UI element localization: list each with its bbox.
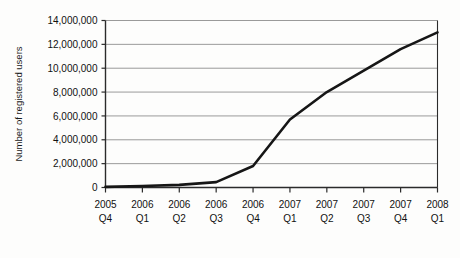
- x-tick-label-year: 2006: [242, 199, 265, 210]
- x-tick-label-year: 2007: [353, 199, 376, 210]
- y-tick-label: 12,000,000: [47, 39, 97, 50]
- y-tick-label: 8,000,000: [53, 87, 98, 98]
- x-tick-label-quarter: Q1: [431, 213, 445, 224]
- x-tick-label-year: 2006: [168, 199, 191, 210]
- x-tick-label-year: 2007: [389, 199, 412, 210]
- y-axis-title: Number of registered users: [13, 46, 24, 161]
- line-chart: 02,000,0004,000,0006,000,0008,000,00010,…: [0, 0, 460, 258]
- chart-figure: 02,000,0004,000,0006,000,0008,000,00010,…: [0, 0, 460, 258]
- x-tick-label-year: 2005: [94, 199, 117, 210]
- x-tick-label-year: 2007: [279, 199, 302, 210]
- x-tick-label-quarter: Q3: [209, 213, 223, 224]
- y-tick-label: 10,000,000: [47, 63, 97, 74]
- x-tick-label-quarter: Q4: [99, 213, 113, 224]
- y-tick-label: 0: [92, 182, 98, 193]
- x-tick-label-year: 2006: [205, 199, 228, 210]
- x-tick-label-quarter: Q2: [173, 213, 187, 224]
- y-tick-label: 4,000,000: [53, 134, 98, 145]
- y-tick-label: 2,000,000: [53, 158, 98, 169]
- y-tick-label: 14,000,000: [47, 15, 97, 26]
- x-tick-label-year: 2006: [131, 199, 154, 210]
- y-axis-title-text: Number of registered users: [13, 46, 24, 161]
- y-tick-label: 6,000,000: [53, 111, 98, 122]
- x-tick-label-quarter: Q1: [136, 213, 150, 224]
- x-tick-label-quarter: Q4: [246, 213, 260, 224]
- x-tick-label-quarter: Q3: [357, 213, 371, 224]
- x-tick-label-year: 2007: [316, 199, 339, 210]
- x-tick-label-quarter: Q4: [394, 213, 408, 224]
- x-tick-label-quarter: Q1: [283, 213, 297, 224]
- x-tick-label-year: 2008: [426, 199, 449, 210]
- x-tick-label-quarter: Q2: [320, 213, 334, 224]
